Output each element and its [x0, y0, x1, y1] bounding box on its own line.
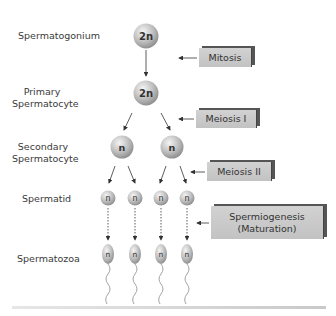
svg-text:n: n	[169, 142, 176, 153]
cell-primary-spermatocyte: 2n	[134, 81, 159, 106]
svg-text:n: n	[159, 250, 164, 259]
cell-spermatid: n	[154, 191, 169, 206]
svg-text:n: n	[184, 194, 189, 203]
bottom-divider	[12, 306, 326, 309]
svg-text:n: n	[185, 250, 190, 259]
svg-text:2n: 2n	[139, 31, 153, 42]
cell-secondary-spermatocyte: n	[111, 136, 134, 159]
cell-spermatogonium: 2n	[134, 24, 159, 49]
svg-text:n: n	[119, 142, 126, 153]
cell-spermatid: n	[180, 191, 195, 206]
svg-text:n: n	[105, 194, 110, 203]
cell-spermatid: n	[128, 191, 143, 206]
svg-text:n: n	[133, 250, 138, 259]
cell-spermatozoon: n	[181, 244, 193, 304]
svg-text:2n: 2n	[139, 88, 153, 99]
cell-spermatozoon: n	[102, 244, 114, 304]
cell-spermatozoon: n	[129, 244, 141, 304]
svg-text:n: n	[106, 250, 111, 259]
cell-spermatid: n	[101, 191, 116, 206]
cell-spermatozoon: n	[155, 244, 167, 304]
cell-secondary-spermatocyte: n	[161, 136, 184, 159]
svg-text:n: n	[132, 194, 137, 203]
diagram-graphics: 2n 2n n n n n n n n	[0, 0, 336, 316]
svg-text:n: n	[158, 194, 163, 203]
